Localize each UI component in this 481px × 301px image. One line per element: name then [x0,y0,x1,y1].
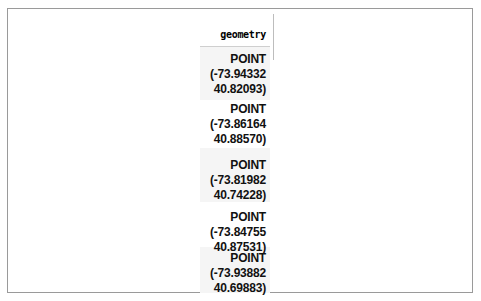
cell-lon: (-73.94332 [200,67,266,82]
cell-lon: (-73.86164 [200,117,266,132]
table-row: POINT (-73.93882 40.69883) [200,247,270,293]
column-divider [273,14,274,60]
table-row: POINT (-73.86164 40.88570) [200,100,270,148]
cell-lon: (-73.93882 [200,266,266,281]
table-row: POINT (-73.94332 40.82093) [200,47,270,100]
cell-type: POINT [200,102,266,117]
table-row: POINT (-73.81982 40.74228) [200,148,270,202]
cell-lon: (-73.81982 [200,173,266,188]
geometry-table: geometry POINT (-73.94332 40.82093) POIN… [200,22,270,293]
cell-lat: 40.88570) [200,132,266,147]
cell-lat: 40.82093) [200,82,266,97]
cell-type: POINT [200,210,266,225]
table-row: POINT (-73.84755 40.87531) [200,202,270,247]
cell-type: POINT [200,52,266,67]
cell-lat: 40.74228) [200,188,266,203]
cell-lat: 40.69883) [200,281,266,296]
column-header-geometry: geometry [200,22,270,47]
cell-lon: (-73.84755 [200,225,266,240]
cell-type: POINT [200,158,266,173]
cell-type: POINT [200,251,266,266]
